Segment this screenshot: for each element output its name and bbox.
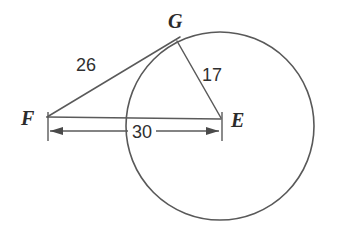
geometry-figure: G F E 26 17 30 [0, 0, 339, 236]
vertex-label-g: G [168, 11, 182, 31]
measure-label-segment-fe: 30 [128, 123, 156, 141]
dimension-arrowhead-right [206, 127, 219, 135]
vertex-label-f: F [21, 108, 34, 128]
segment-fg-tangent [47, 37, 180, 117]
measure-label-radius-ge: 17 [202, 66, 222, 84]
dimension-arrowhead-left [50, 127, 63, 135]
measure-label-tangent-fg: 26 [76, 56, 96, 74]
segment-fe [47, 117, 221, 119]
vertex-label-e: E [231, 110, 244, 130]
geometry-canvas [0, 0, 339, 236]
